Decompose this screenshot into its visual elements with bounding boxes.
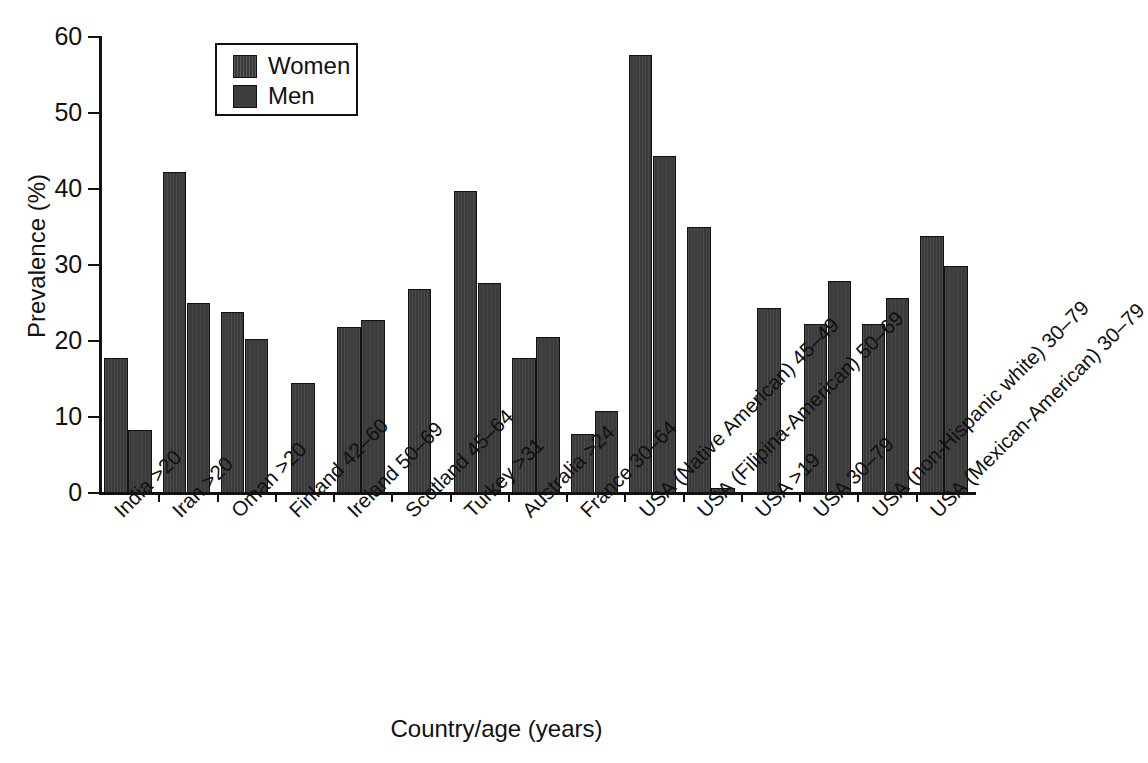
y-tick-50: [88, 112, 99, 114]
x-tick-7: [508, 493, 510, 502]
y-tick-label-text: 30: [38, 252, 82, 277]
x-tick-11: [741, 493, 743, 502]
y-tick-0: [88, 492, 99, 494]
bar-women: [163, 172, 187, 493]
legend-item-women: Women: [233, 53, 350, 79]
y-tick-10: [88, 416, 99, 418]
legend-label-women: Women: [268, 54, 350, 78]
x-tick-14: [916, 493, 918, 502]
x-tick-5: [391, 493, 393, 502]
x-tick-1: [158, 493, 160, 502]
bar-men: [944, 266, 968, 493]
y-tick-label-0: 0: [38, 480, 82, 505]
y-tick-label-text: 20: [38, 328, 82, 353]
y-tick-label-text: 60: [38, 24, 82, 49]
y-tick-label-60: 60: [38, 24, 82, 49]
x-tick-4: [333, 493, 335, 502]
legend-label-men: Men: [268, 84, 315, 108]
y-tick-label-40: 40: [38, 176, 82, 201]
x-tick-3: [275, 493, 277, 502]
y-tick-40: [88, 188, 99, 190]
x-tick-2: [217, 493, 219, 502]
y-tick-label-30: 30: [38, 252, 82, 277]
y-tick-label-10: 10: [38, 404, 82, 429]
y-tick-label-text: 40: [38, 176, 82, 201]
bar-men: [478, 283, 502, 493]
y-tick-label-text: 50: [38, 100, 82, 125]
x-tick-13: [857, 493, 859, 502]
x-tick-9: [624, 493, 626, 502]
x-tick-10: [683, 493, 685, 502]
bar-women: [104, 358, 128, 493]
y-tick-20: [88, 340, 99, 342]
y-tick-label-text: 0: [38, 480, 82, 505]
legend-item-men: Men: [233, 83, 315, 109]
x-tick-12: [799, 493, 801, 502]
x-tick-6: [450, 493, 452, 502]
legend: Women Men: [215, 43, 358, 116]
x-tick-8: [566, 493, 568, 502]
women-swatch-icon: [233, 55, 257, 78]
men-swatch-icon: [233, 85, 257, 108]
y-tick-30: [88, 264, 99, 266]
y-tick-label-50: 50: [38, 100, 82, 125]
x-axis-title: Country/age (years): [0, 716, 993, 742]
bar-women: [629, 55, 653, 493]
y-tick-60: [88, 36, 99, 38]
y-tick-label-text: 10: [38, 404, 82, 429]
y-tick-label-20: 20: [38, 328, 82, 353]
